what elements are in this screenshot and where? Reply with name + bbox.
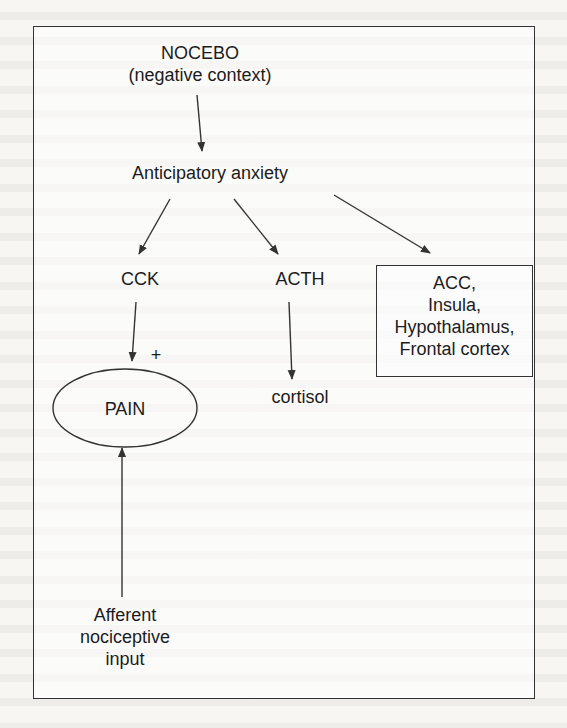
afferent-line-2: nociceptive xyxy=(70,626,180,648)
region-acc: ACC, xyxy=(377,272,532,294)
node-brain-regions: ACC, Insula, Hypothalamus, Frontal corte… xyxy=(376,265,533,377)
plus-sign-label: + xyxy=(146,344,166,366)
node-cck: CCK xyxy=(100,268,180,290)
nocebo-subtitle: (negative context) xyxy=(120,64,280,86)
arrow-anxiety-to-cck xyxy=(139,199,170,254)
node-nocebo: NOCEBO (negative context) xyxy=(120,42,280,86)
node-pain: PAIN xyxy=(85,398,165,420)
arrow-nocebo-to-anxiety xyxy=(197,95,202,151)
region-insula: Insula, xyxy=(377,294,532,316)
arrow-anxiety-to-regions xyxy=(334,195,430,253)
node-afferent-input: Afferent nociceptive input xyxy=(70,604,180,670)
afferent-line-3: input xyxy=(70,648,180,670)
arrow-anxiety-to-acth xyxy=(234,199,278,254)
nocebo-title: NOCEBO xyxy=(120,42,280,64)
node-acth: ACTH xyxy=(260,268,340,290)
node-anticipatory-anxiety: Anticipatory anxiety xyxy=(110,162,310,184)
arrow-cck-to-pain xyxy=(132,302,136,361)
region-hypothalamus: Hypothalamus, xyxy=(377,316,532,338)
node-cortisol: cortisol xyxy=(250,386,350,408)
arrow-acth-to-cortisol xyxy=(289,302,292,379)
afferent-line-1: Afferent xyxy=(70,604,180,626)
region-frontal-cortex: Frontal cortex xyxy=(377,338,532,360)
